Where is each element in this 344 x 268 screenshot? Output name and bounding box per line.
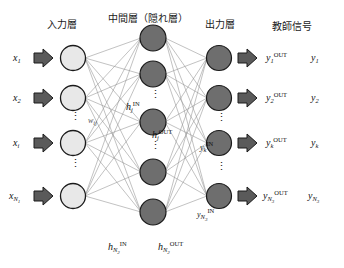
input-label-x2: x2 xyxy=(13,92,21,104)
output-label-yN-out-sup: OUT xyxy=(274,189,287,196)
hidden-ellipsis-2: ⋮ xyxy=(150,143,161,147)
hidden-label-hj-in-sub: j xyxy=(131,106,133,113)
input-nodes xyxy=(61,46,86,209)
weight-label-wij: wij xyxy=(88,116,97,126)
output-arrows xyxy=(238,49,257,205)
neural-network-diagram: 入力層 中間層（隠れ層） 出力層 教師信号 x1 x2 xi xN1 ⋮ ⋮ w… xyxy=(0,0,344,268)
hidden-label-hN-out-sub-idx: 2 xyxy=(167,250,170,255)
output-ellipsis-1: ⋮ xyxy=(216,115,227,119)
output-label-y1-out-sup: OUT xyxy=(274,51,287,58)
hidden-label-hN-in-sub: N2 xyxy=(113,246,120,253)
connections-hidden-output xyxy=(165,38,207,212)
output-label-yN-in-sub: N3 xyxy=(201,213,208,220)
teacher-label-yN-sub-idx: 3 xyxy=(317,199,320,204)
output-label-y1-out-sub: 1 xyxy=(270,57,273,64)
input-label-x2-sub: 2 xyxy=(17,97,20,104)
input-ellipsis-1: ⋮ xyxy=(70,114,81,118)
input-label-xN: xN1 xyxy=(9,190,20,204)
output-label-yN-in: yN3IN xyxy=(197,207,214,222)
teacher-label-yk: yk xyxy=(311,137,318,149)
output-label-yk-out: ykOUT xyxy=(266,136,287,149)
teacher-label-y1-sub: 1 xyxy=(315,57,318,64)
output-label-y2-out-sup: OUT xyxy=(274,91,287,98)
hidden-label-hN-out-sub: N2 xyxy=(163,246,170,253)
output-label-yk-out-sup: OUT xyxy=(273,136,286,143)
header-input-layer: 入力層 xyxy=(47,16,77,31)
teacher-label-y2: y2 xyxy=(311,92,319,104)
output-label-yk-in-sub: k xyxy=(204,146,207,153)
weight-label-sub: ij xyxy=(93,119,97,126)
hidden-nodes xyxy=(140,25,166,225)
output-label-yk-out-sub: k xyxy=(270,142,273,149)
teacher-label-yN-sub: N3 xyxy=(312,195,319,202)
output-label-y2-out-sub: 2 xyxy=(270,97,273,104)
input-label-x1: x1 xyxy=(13,52,21,64)
output-label-yN-out-sub-idx: 3 xyxy=(272,199,275,204)
teacher-label-y2-sub: 2 xyxy=(315,97,318,104)
output-ellipsis-2: ⋮ xyxy=(216,164,227,168)
teacher-label-y1: y1 xyxy=(311,52,319,64)
input-ellipsis-2: ⋮ xyxy=(70,161,81,165)
hidden-label-hj-in-sup: IN xyxy=(133,100,140,107)
input-label-xi: xi xyxy=(13,137,19,149)
header-teacher-signal: 教師信号 xyxy=(272,18,312,33)
input-label-x1-sub: 1 xyxy=(17,57,20,64)
output-label-y2-out: y2OUT xyxy=(266,91,287,104)
teacher-label-yN: yN3 xyxy=(308,190,319,204)
header-output-layer: 出力層 xyxy=(205,16,235,31)
header-hidden-layer: 中間層（隠れ層） xyxy=(108,10,188,25)
hidden-label-hN-out-sup: OUT xyxy=(170,240,183,247)
hidden-label-hN-in-sub-idx: 2 xyxy=(117,250,120,255)
output-label-yN-in-sub-idx: 3 xyxy=(205,217,208,222)
hidden-label-hN-in: hN2IN xyxy=(108,240,127,255)
input-label-xN-sub-idx: 1 xyxy=(18,199,21,204)
hidden-label-hN-out: hN2OUT xyxy=(158,240,183,255)
input-label-xN-sub: N1 xyxy=(13,195,20,202)
output-label-y1-out: y1OUT xyxy=(266,51,287,64)
teacher-label-yk-sub: k xyxy=(315,142,318,149)
input-label-xi-sub: i xyxy=(17,142,19,149)
output-label-yk-in: ykIN xyxy=(200,140,213,153)
output-label-yN-in-sup: IN xyxy=(207,207,214,214)
input-arrows xyxy=(34,49,53,205)
hidden-ellipsis-1: ⋮ xyxy=(150,92,161,96)
output-nodes xyxy=(207,46,232,209)
output-label-yN-out: yN3OUT xyxy=(263,189,288,204)
output-label-yk-in-sup: IN xyxy=(206,140,213,147)
output-label-yN-out-sub: N3 xyxy=(267,195,274,202)
hidden-label-hj-out-sup: OUT xyxy=(159,128,172,135)
hidden-label-hN-in-sup: IN xyxy=(120,240,127,247)
hidden-label-hj-in: hjIN xyxy=(126,100,140,113)
